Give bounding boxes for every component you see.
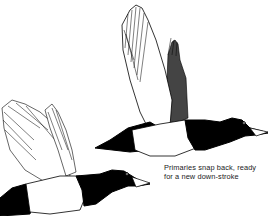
ducks-illustration bbox=[0, 0, 271, 216]
caption-line-2: for a new down-stroke bbox=[164, 172, 271, 181]
lower-duck bbox=[0, 100, 150, 216]
caption-line-1: Primaries snap back, ready bbox=[164, 163, 271, 172]
caption: Primaries snap back, ready for a new dow… bbox=[164, 163, 271, 181]
illustration-canvas: Primaries snap back, ready for a new dow… bbox=[0, 0, 271, 216]
upper-duck bbox=[95, 5, 268, 156]
